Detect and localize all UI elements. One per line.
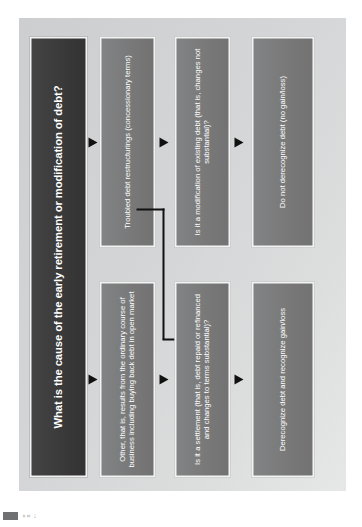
node-modification-question-label: Is it a modification of existing debt (t… [193,42,211,241]
node-title-question-label: What is the cause of the early retiremen… [51,42,64,471]
node-no-derecognize-outcome-label: Do not derecognize debt (no gain/loss) [278,42,287,241]
diagram-rotation-wrapper: What is the cause of the early retiremen… [19,18,346,491]
node-settlement-question-label: Is it a settlement (that is, debt repaid… [193,287,211,471]
node-other-cause-label: Other, that is, results from the ordinar… [118,287,136,471]
node-other-cause[interactable]: Other, that is, results from the ordinar… [99,281,155,477]
corner-glyph-3: ← [31,513,37,519]
arrow-other-to-settlement [159,374,168,384]
slide-canvas: What is the cause of the early retiremen… [0,0,362,527]
arrow-title-to-tdr [88,137,97,147]
elbow-segment-vertical-a [136,208,164,210]
arrow-tdr-to-modification [159,137,168,147]
elbow-segment-horizontal [162,208,164,339]
arrow-settlement-to-derecognize [234,374,243,384]
corner-swatch [3,512,18,520]
node-title-question[interactable]: What is the cause of the early retiremen… [29,36,87,477]
corner-glyph-group: » s ← [21,513,37,519]
arrow-modification-to-no-derecognize [234,137,243,147]
corner-mark: » s ← [3,508,37,524]
node-troubled-debt-restructuring-label: Troubled debt restructurings (concession… [123,42,132,241]
node-no-derecognize-outcome[interactable]: Do not derecognize debt (no gain/loss) [251,36,314,247]
node-modification-question[interactable]: Is it a modification of existing debt (t… [174,36,230,247]
node-derecognize-outcome[interactable]: Derecognize debt and recognize gain/loss [251,281,314,477]
corner-glyph-2: s [25,515,31,518]
node-troubled-debt-restructuring[interactable]: Troubled debt restructurings (concession… [99,36,155,247]
arrow-title-to-other [88,374,97,384]
flowchart: What is the cause of the early retiremen… [19,18,346,491]
node-settlement-question[interactable]: Is it a settlement (that is, debt repaid… [174,281,230,477]
node-derecognize-outcome-label: Derecognize debt and recognize gain/loss [278,287,287,471]
